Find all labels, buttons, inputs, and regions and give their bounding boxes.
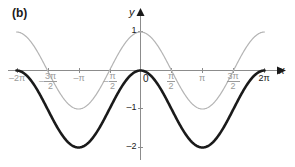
x-tick-label: π (199, 74, 205, 83)
x-axis-label: x (279, 64, 285, 76)
y-axis-label: y (129, 6, 135, 18)
y-axis-arrow-icon (137, 8, 145, 16)
x-tick-label: 2π (259, 74, 270, 83)
origin-label: 0 (143, 74, 149, 84)
figure-panel-b: (b) x y –2π–3π2–π–π2π2π3π22π 1–1–2 0 (0, 0, 295, 167)
x-tick-label: π2 (167, 72, 175, 91)
y-tick-label: –2 (127, 141, 137, 151)
x-tick-label: –π (74, 74, 85, 83)
x-tick-label: 3π2 (227, 72, 240, 91)
x-tick-label: –2π (9, 74, 25, 83)
y-tick-label: 1 (132, 25, 137, 35)
x-tick-label: –3π2 (39, 72, 57, 91)
y-tick-label: –1 (127, 102, 137, 112)
x-tick-label: –π2 (104, 72, 117, 91)
